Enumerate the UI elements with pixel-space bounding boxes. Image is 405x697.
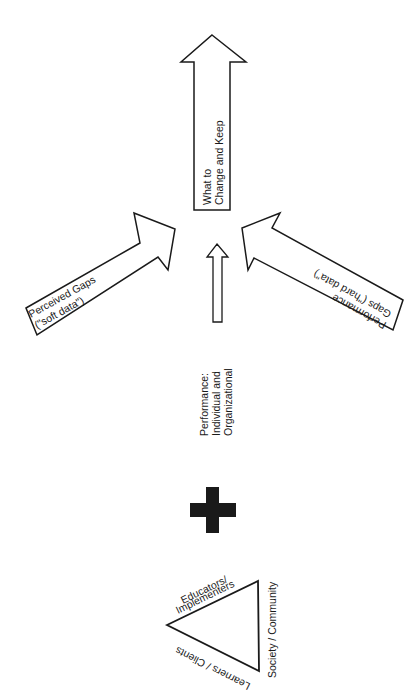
top-arrow-label-line2: Change and Keep <box>213 120 225 205</box>
right-arrow: Performance Gaps ("hard data") <box>242 213 403 332</box>
center-label-line1: Performance: <box>198 373 210 436</box>
triangle-bottom-label: Learners / Clients <box>173 645 252 693</box>
left-arrow: Perceived Gaps ("soft data") <box>26 213 175 335</box>
center-label-line3: Organizational <box>222 368 234 436</box>
triangle-right-label: Society / Community <box>266 581 278 678</box>
center-label: Performance: Individual and Organization… <box>198 368 234 436</box>
center-label-line2: Individual and <box>210 371 222 436</box>
stakeholder-triangle: Educators/ Implementers Society / Commun… <box>167 573 278 693</box>
top-arrow-label-line1: What to <box>201 169 213 205</box>
center-small-arrow <box>207 244 228 322</box>
top-arrow: What to Change and Keep <box>181 35 246 210</box>
plus-icon <box>190 487 236 533</box>
diagram-canvas: What to Change and Keep Perceived Gaps (… <box>0 0 405 697</box>
